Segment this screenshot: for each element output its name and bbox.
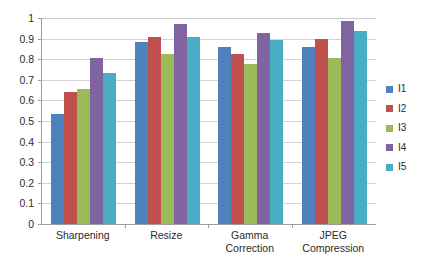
bar-i5-jpeg-compression[interactable]	[354, 31, 367, 224]
y-axis-tick-label: 0	[4, 219, 34, 230]
x-axis-label-line: Correction	[210, 242, 290, 255]
bar-i1-resize[interactable]	[135, 42, 148, 224]
legend-label: I3	[398, 123, 406, 133]
legend-label: I1	[398, 84, 406, 94]
category-group	[293, 18, 377, 224]
legend-item-i5[interactable]: I5	[386, 162, 406, 172]
x-axis-label-line: Sharpening	[43, 229, 123, 242]
bar-i5-gamma-correction[interactable]	[270, 40, 283, 224]
bar-i2-jpeg-compression[interactable]	[315, 39, 328, 224]
legend-item-i2[interactable]: I2	[386, 104, 406, 114]
x-axis-tick-labels: SharpeningResizeGammaCorrectionJPEGCompr…	[41, 229, 375, 255]
bar-i5-resize[interactable]	[187, 37, 200, 224]
y-axis-tick-label: 0.3	[4, 157, 34, 168]
legend-item-i1[interactable]: I1	[386, 84, 406, 94]
x-axis-label-line: Resize	[127, 229, 207, 242]
y-axis-tick-labels: 00.10.20.30.40.50.60.70.80.91	[4, 0, 34, 262]
y-axis-tick-label: 0.5	[4, 116, 34, 127]
legend-swatch-icon	[386, 86, 393, 93]
y-axis-tick-label: 0.7	[4, 75, 34, 86]
legend-item-i3[interactable]: I3	[386, 123, 406, 133]
bar-i1-jpeg-compression[interactable]	[302, 47, 315, 224]
bar-i2-resize[interactable]	[148, 37, 161, 224]
y-axis-tick-label: 0.4	[4, 136, 34, 147]
bar-i2-sharpening[interactable]	[64, 92, 77, 224]
y-axis-tick-label: 0.6	[4, 95, 34, 106]
bar-i1-sharpening[interactable]	[51, 114, 64, 224]
y-axis-tick-label: 0.1	[4, 198, 34, 209]
y-axis-tick-label: 0.2	[4, 178, 34, 189]
bar-i2-gamma-correction[interactable]	[231, 54, 244, 224]
legend-label: I5	[398, 162, 406, 172]
bar-i4-sharpening[interactable]	[90, 58, 103, 224]
legend-label: I2	[398, 104, 406, 114]
bar-i5-sharpening[interactable]	[103, 73, 116, 224]
x-axis-tick-mark	[208, 224, 209, 228]
legend-label: I4	[398, 143, 406, 153]
bar-i4-resize[interactable]	[174, 24, 187, 224]
y-axis-tick-label: 1	[4, 13, 34, 24]
x-axis-tick-mark	[292, 224, 293, 228]
x-axis-label-line: JPEG	[294, 229, 374, 242]
legend-swatch-icon	[386, 144, 393, 151]
x-axis-label-sharpening: Sharpening	[41, 229, 125, 255]
category-group	[209, 18, 293, 224]
gridline	[42, 224, 376, 225]
plot-area	[41, 18, 376, 224]
bar-chart: 00.10.20.30.40.50.60.70.80.91 Sharpening…	[0, 0, 435, 262]
bar-i3-resize[interactable]	[161, 54, 174, 224]
bar-set	[42, 18, 126, 224]
category-group	[42, 18, 126, 224]
bar-i1-gamma-correction[interactable]	[218, 47, 231, 224]
x-axis-label-line: Compression	[294, 242, 374, 255]
x-axis-label-line: Gamma	[210, 229, 290, 242]
x-axis-tick-mark	[125, 224, 126, 228]
bar-set	[209, 18, 293, 224]
chart-plot-wrapper: 00.10.20.30.40.50.60.70.80.91 Sharpening…	[0, 0, 435, 262]
category-groups	[42, 18, 376, 224]
legend-swatch-icon	[386, 164, 393, 171]
legend-item-i4[interactable]: I4	[386, 143, 406, 153]
y-axis-tick-label: 0.9	[4, 33, 34, 44]
bar-i4-jpeg-compression[interactable]	[341, 21, 354, 224]
bar-i4-gamma-correction[interactable]	[257, 33, 270, 224]
bar-i3-gamma-correction[interactable]	[244, 64, 257, 224]
chart-legend: I1I2I3I4I5	[386, 84, 406, 172]
bar-i3-jpeg-compression[interactable]	[328, 58, 341, 224]
bar-set	[126, 18, 210, 224]
bar-i3-sharpening[interactable]	[77, 89, 90, 224]
x-axis-label-gamma-correction: GammaCorrection	[208, 229, 292, 255]
x-axis-label-resize: Resize	[125, 229, 209, 255]
category-group	[126, 18, 210, 224]
y-axis-tick-label: 0.8	[4, 54, 34, 65]
legend-swatch-icon	[386, 125, 393, 132]
bar-set	[293, 18, 377, 224]
y-axis-tick-mark	[38, 224, 42, 225]
x-axis-label-jpeg-compression: JPEGCompression	[292, 229, 376, 255]
legend-swatch-icon	[386, 105, 393, 112]
